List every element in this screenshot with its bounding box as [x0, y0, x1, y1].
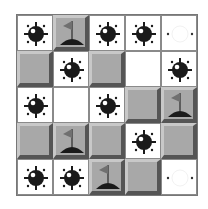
- cell-mine-r0c2[interactable]: [89, 15, 125, 51]
- mine-icon: [90, 16, 125, 51]
- cell-mine-r4c1[interactable]: [53, 159, 89, 195]
- mine-icon: [162, 52, 197, 87]
- cell-flag-r0c1[interactable]: [53, 15, 89, 51]
- cell-empty-r1c3[interactable]: [125, 51, 161, 87]
- mine-icon: [18, 16, 53, 51]
- mine-icon: [18, 88, 53, 123]
- mine-icon: [90, 88, 125, 123]
- flag-icon: [53, 123, 89, 159]
- cell-mine-r2c2[interactable]: [89, 87, 125, 123]
- cell-mine-r1c4[interactable]: [161, 51, 197, 87]
- cell-mine-r0c3[interactable]: [125, 15, 161, 51]
- cell-ghost-mine-r0c4[interactable]: [161, 15, 197, 51]
- cell-covered-r1c0[interactable]: [17, 51, 53, 87]
- cell-empty-r2c1[interactable]: [53, 87, 89, 123]
- cell-mine-r2c0[interactable]: [17, 87, 53, 123]
- flag-icon: [53, 15, 89, 51]
- cell-covered-r1c2[interactable]: [89, 51, 125, 87]
- cell-flag-r2c4[interactable]: [161, 87, 197, 123]
- cell-mine-r4c0[interactable]: [17, 159, 53, 195]
- faded-mine-icon: [162, 160, 197, 195]
- flag-icon: [161, 87, 197, 123]
- mine-icon: [54, 160, 89, 195]
- cell-covered-r3c4[interactable]: [161, 123, 197, 159]
- cell-flag-r4c2[interactable]: [89, 159, 125, 195]
- cell-covered-r2c3[interactable]: [125, 87, 161, 123]
- mine-icon: [18, 160, 53, 195]
- mine-icon: [126, 124, 161, 159]
- cell-covered-r3c2[interactable]: [89, 123, 125, 159]
- cell-covered-r4c3[interactable]: [125, 159, 161, 195]
- mine-icon: [54, 52, 89, 87]
- cell-covered-r3c0[interactable]: [17, 123, 53, 159]
- cell-mine-r3c3[interactable]: [125, 123, 161, 159]
- cell-mine-r1c1[interactable]: [53, 51, 89, 87]
- cell-ghost-mine-r4c4[interactable]: [161, 159, 197, 195]
- cell-mine-r0c0[interactable]: [17, 15, 53, 51]
- faded-mine-icon: [162, 16, 197, 51]
- minefield-board: [16, 14, 198, 196]
- mine-icon: [126, 16, 161, 51]
- cell-flag-r3c1[interactable]: [53, 123, 89, 159]
- flag-icon: [89, 159, 125, 195]
